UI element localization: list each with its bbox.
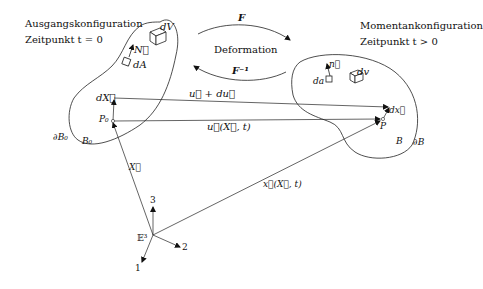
- displacement-increment-label: u⃗ + du⃗: [189, 89, 235, 99]
- euclidean-space-label: 𝔼³: [137, 234, 147, 243]
- reference-boundary-label: ∂B₀: [53, 133, 68, 142]
- point-P0: [111, 119, 114, 122]
- reference-config-title: Ausgangskonfiguration: [25, 19, 143, 29]
- forward-deformation-arrow: [198, 25, 290, 40]
- reference-region-label: B₀: [82, 137, 92, 146]
- area-element-da-label: da: [313, 77, 324, 86]
- position-vector-X: [113, 123, 153, 235]
- displacement-label: u⃗(X⃗, t): [207, 122, 251, 132]
- inverse-map-label: F⁻¹: [232, 66, 249, 76]
- area-element-da: [326, 76, 332, 82]
- normal-N-label: N⃗: [134, 45, 149, 55]
- axis-2-label: 2: [182, 243, 188, 252]
- area-element-dA: [122, 57, 131, 66]
- axis-2: [153, 235, 180, 247]
- area-element-dA-label: dA: [133, 60, 147, 70]
- position-x-label: x⃗(X⃗, t): [263, 180, 302, 189]
- current-config-title: Momentankonfiguration: [360, 21, 483, 31]
- deformation-label: Deformation: [214, 45, 278, 55]
- volume-element-dv-label: dv: [357, 67, 369, 77]
- position-vector-x: [153, 121, 380, 235]
- volume-element-dV-label: dV: [160, 22, 174, 32]
- position-X-label: X⃗: [129, 163, 141, 172]
- normal-N-arrow: [129, 45, 133, 57]
- axis-3-label: 3: [150, 196, 156, 205]
- line-element-dx-label: dx⃗: [389, 106, 405, 115]
- reference-time-label: Zeitpunkt t = 0: [25, 35, 103, 45]
- normal-n-label: n⃗: [329, 60, 340, 69]
- current-boundary-label: ∂B: [413, 138, 424, 147]
- point-P-label: P: [380, 122, 386, 131]
- forward-map-label: F: [238, 13, 245, 23]
- axis-1-label: 1: [135, 264, 141, 273]
- line-element-dX-label: dX⃗: [96, 93, 116, 103]
- current-time-label: Zeitpunkt t > 0: [360, 37, 438, 47]
- line-element-dX: [113, 100, 114, 121]
- point-P0-label: P₀: [99, 115, 109, 124]
- current-region-label: B: [396, 137, 403, 146]
- displacement-increment-vector: [114, 98, 388, 107]
